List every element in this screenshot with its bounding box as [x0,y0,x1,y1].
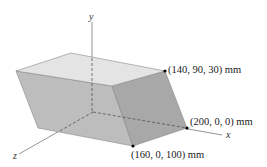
point-140-90-30 [163,69,166,72]
x-axis-label: x [226,130,230,140]
point-label-x: (200, 0, 0) mm [190,117,253,128]
z-axis-label: z [13,151,17,161]
parallelepiped-diagram [0,0,267,167]
point-160-0-100 [131,144,134,147]
point-200-0-0 [185,126,188,129]
y-axis-label: y [89,12,93,22]
point-label-top: (140, 90, 30) mm [168,65,241,76]
point-label-front: (160, 0, 100) mm [131,150,204,161]
